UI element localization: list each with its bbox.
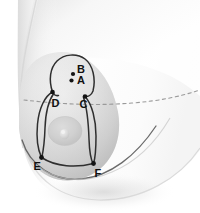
nipple-highlight: [61, 130, 65, 134]
breast-landmark-figure: A B C D E F: [0, 0, 200, 213]
areola-nipple-group: [48, 117, 82, 146]
landmark-label-F: F: [95, 167, 102, 179]
landmark-dot-A[interactable]: [69, 78, 73, 82]
landmark-dot-B[interactable]: [71, 72, 75, 76]
landmark-label-A: A: [77, 74, 85, 86]
landmark-label-C: C: [80, 98, 88, 110]
landmark-label-B: B: [77, 63, 85, 75]
figure-canvas: A B C D E F: [0, 0, 200, 213]
landmark-label-E: E: [34, 160, 41, 172]
landmark-dot-F[interactable]: [91, 161, 96, 166]
nipple: [60, 129, 70, 139]
landmark-dot-D[interactable]: [50, 90, 55, 95]
landmark-label-D: D: [52, 97, 60, 109]
